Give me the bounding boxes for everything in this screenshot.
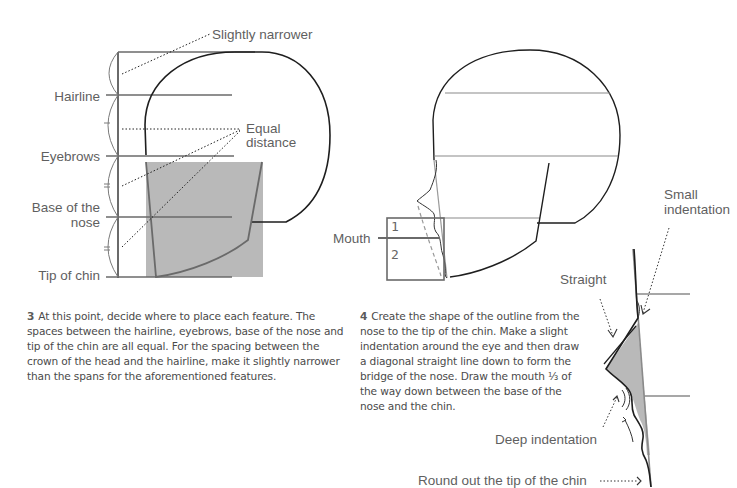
step3-caption: 3At this point, decide where to place ea… [27,309,349,384]
step4-caption-fraction: ⅓ [548,370,558,382]
profile-face-line [417,160,447,278]
label-deep-indentation: Deep indentation [495,432,597,447]
label-straight: Straight [560,272,607,287]
label-tip-of-chin: Tip of chin [10,268,100,283]
label-slightly-narrower: Slightly narrower [212,27,313,42]
step4-caption-text-a: Create the shape of the outline from the… [360,310,579,382]
label-round-chin: Round out the tip of the chin [418,473,587,488]
label-equal: Equal [246,121,281,136]
step4-number: 4 [360,310,367,322]
profile-closeup-diagram [600,228,690,487]
label-base-of-nose-2: nose [10,215,100,230]
label-box-part-2: 2 [391,247,399,262]
profile-head-outline [433,50,620,223]
label-distance: distance [246,135,296,150]
step3-number: 3 [27,310,34,322]
step3-diagram [104,34,330,278]
label-small-indentation-2: indentation [664,202,730,217]
equal-ticks [104,123,110,250]
label-box-part-1: 1 [391,219,399,234]
label-mouth: Mouth [333,231,371,246]
profile-dashed-line [418,206,441,276]
step4-caption: 4Create the shape of the outline from th… [360,309,585,414]
label-base-of-nose-1: Base of the [10,200,100,215]
label-small-indentation-1: Small [664,187,698,202]
label-hairline: Hairline [30,89,100,104]
step3-caption-text: At this point, decide where to place eac… [27,310,343,382]
span-brackets [108,52,118,277]
step4-head-diagram [378,50,620,280]
label-eyebrows: Eyebrows [20,149,100,164]
profile-jaw [450,163,549,277]
face-shade-box [146,162,263,277]
